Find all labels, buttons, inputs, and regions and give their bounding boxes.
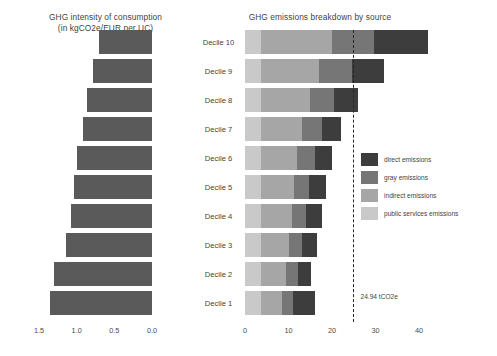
legend-label: indirect emissions bbox=[384, 192, 436, 199]
segment-direct bbox=[302, 233, 317, 257]
intensity-bar-row bbox=[0, 146, 152, 170]
reference-line-label: 24.94 tCO2e bbox=[360, 293, 397, 300]
decile-label: Decile 5 bbox=[196, 175, 241, 199]
segment-direct bbox=[309, 175, 326, 199]
segment-gray bbox=[286, 262, 297, 286]
segment-public-services bbox=[245, 204, 261, 228]
segment-indirect bbox=[261, 146, 298, 170]
intensity-bar bbox=[83, 117, 152, 141]
reference-line bbox=[353, 30, 354, 322]
segment-indirect bbox=[261, 88, 311, 112]
left-chart-title-line1: GHG intensity of consumption bbox=[18, 12, 193, 23]
legend: direct emissionsgray emissionsindirect e… bbox=[361, 152, 493, 224]
segment-public-services bbox=[245, 59, 261, 83]
intensity-bar-row bbox=[0, 233, 152, 257]
decile-label: Decile 3 bbox=[196, 233, 241, 257]
decile-label: Decile 10 bbox=[196, 30, 241, 54]
decile-label: Decile 8 bbox=[196, 88, 241, 112]
segment-direct bbox=[322, 117, 341, 141]
segment-indirect bbox=[261, 30, 332, 54]
segment-gray bbox=[289, 233, 302, 257]
right-chart-title: GHG emissions breakdown by source bbox=[220, 12, 420, 23]
intensity-bar-row bbox=[0, 204, 152, 228]
axis-tick-label: 30 bbox=[371, 326, 379, 335]
intensity-bar-row bbox=[0, 117, 152, 141]
legend-item: direct emissions bbox=[361, 152, 493, 168]
segment-gray bbox=[319, 59, 352, 83]
segment-public-services bbox=[245, 291, 261, 315]
segment-indirect bbox=[261, 291, 282, 315]
intensity-bar bbox=[71, 204, 152, 228]
intensity-bar-row bbox=[0, 262, 152, 286]
axis-tick-label: 40 bbox=[415, 326, 423, 335]
segment-indirect bbox=[261, 175, 294, 199]
decile-label: Decile 7 bbox=[196, 117, 241, 141]
intensity-bar bbox=[99, 30, 152, 54]
segment-gray bbox=[294, 175, 310, 199]
segment-indirect bbox=[261, 204, 292, 228]
intensity-bar-row bbox=[0, 175, 152, 199]
segment-gray bbox=[302, 117, 321, 141]
segment-indirect bbox=[261, 262, 287, 286]
decile-label: Decile 4 bbox=[196, 204, 241, 228]
decile-label: Decile 6 bbox=[196, 146, 241, 170]
intensity-bar-row bbox=[0, 88, 152, 112]
segment-direct bbox=[374, 30, 428, 54]
segment-direct bbox=[315, 146, 332, 170]
legend-label: gray emissions bbox=[384, 174, 428, 181]
decile-label: Decile 2 bbox=[196, 262, 241, 286]
segment-direct bbox=[352, 59, 384, 83]
decile-label: Decile 9 bbox=[196, 59, 241, 83]
intensity-bar bbox=[74, 175, 152, 199]
segment-gray bbox=[297, 146, 314, 170]
ghg-intensity-chart bbox=[0, 30, 196, 320]
intensity-bar-row bbox=[0, 59, 152, 83]
intensity-bar bbox=[66, 233, 152, 257]
intensity-bar-row bbox=[0, 291, 152, 315]
axis-tick-label: 10 bbox=[284, 326, 292, 335]
axis-tick-label: 0 bbox=[243, 326, 247, 335]
segment-gray bbox=[282, 291, 293, 315]
segment-direct bbox=[298, 262, 311, 286]
axis-tick-label: 20 bbox=[328, 326, 336, 335]
intensity-bar bbox=[54, 262, 152, 286]
legend-item: public services emissions bbox=[361, 206, 493, 222]
intensity-bar bbox=[93, 59, 153, 83]
segment-public-services bbox=[245, 117, 261, 141]
intensity-bar bbox=[87, 88, 152, 112]
legend-label: public services emissions bbox=[384, 210, 458, 217]
legend-label: direct emissions bbox=[384, 156, 431, 163]
legend-swatch-icon bbox=[361, 153, 378, 166]
segment-direct bbox=[293, 291, 315, 315]
legend-swatch-icon bbox=[361, 207, 378, 220]
segment-indirect bbox=[261, 117, 303, 141]
segment-public-services bbox=[245, 233, 261, 257]
segment-indirect bbox=[261, 233, 290, 257]
segment-public-services bbox=[245, 175, 261, 199]
segment-public-services bbox=[245, 30, 261, 54]
legend-item: indirect emissions bbox=[361, 188, 493, 204]
intensity-bar-row bbox=[0, 30, 152, 54]
intensity-bar bbox=[77, 146, 152, 170]
segment-public-services bbox=[245, 146, 261, 170]
decile-label-column: Decile 10Decile 9Decile 8Decile 7Decile … bbox=[196, 30, 241, 320]
segment-gray bbox=[292, 204, 306, 228]
figure-canvas: GHG intensity of consumption (in kgCO2e/… bbox=[0, 0, 497, 356]
segment-gray bbox=[310, 88, 333, 112]
legend-swatch-icon bbox=[361, 189, 378, 202]
intensity-bar bbox=[50, 291, 152, 315]
right-chart-x-axis: 010203040 bbox=[0, 326, 497, 342]
legend-item: gray emissions bbox=[361, 170, 493, 186]
legend-swatch-icon bbox=[361, 171, 378, 184]
decile-label: Decile 1 bbox=[196, 291, 241, 315]
segment-indirect bbox=[261, 59, 319, 83]
segment-public-services bbox=[245, 88, 261, 112]
segment-direct bbox=[306, 204, 322, 228]
segment-public-services bbox=[245, 262, 261, 286]
